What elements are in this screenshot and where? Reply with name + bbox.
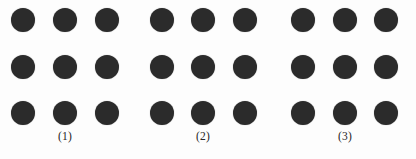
dot bbox=[150, 101, 174, 125]
dot bbox=[11, 8, 35, 32]
dot bbox=[374, 55, 398, 79]
dot bbox=[233, 101, 257, 125]
dot bbox=[191, 8, 215, 32]
dot bbox=[291, 8, 315, 32]
dot bbox=[291, 55, 315, 79]
dot bbox=[333, 101, 357, 125]
dot-array-figure: (1) (2) (3) bbox=[0, 0, 416, 159]
dot bbox=[191, 55, 215, 79]
dot bbox=[374, 8, 398, 32]
dot bbox=[95, 101, 119, 125]
group-label-2: (2) bbox=[183, 129, 223, 143]
group-label-1: (1) bbox=[45, 129, 85, 143]
dot bbox=[53, 8, 77, 32]
dot bbox=[53, 55, 77, 79]
dot bbox=[374, 101, 398, 125]
dot bbox=[291, 101, 315, 125]
dot bbox=[95, 8, 119, 32]
dot bbox=[150, 55, 174, 79]
dot bbox=[11, 55, 35, 79]
dot bbox=[150, 8, 174, 32]
dot bbox=[233, 8, 257, 32]
dot bbox=[333, 8, 357, 32]
dot bbox=[333, 55, 357, 79]
dot bbox=[233, 55, 257, 79]
dot bbox=[53, 101, 77, 125]
dot bbox=[95, 55, 119, 79]
dot bbox=[11, 101, 35, 125]
group-label-3: (3) bbox=[325, 129, 365, 143]
dot bbox=[191, 101, 215, 125]
